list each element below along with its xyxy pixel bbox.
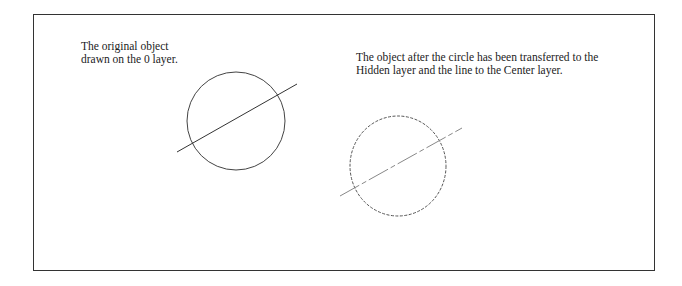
original-object [177, 72, 297, 170]
hidden-circle [350, 116, 446, 216]
cad-drawing [0, 0, 682, 286]
center-line [340, 128, 462, 196]
continuous-circle [187, 72, 285, 170]
converted-object [340, 116, 462, 216]
